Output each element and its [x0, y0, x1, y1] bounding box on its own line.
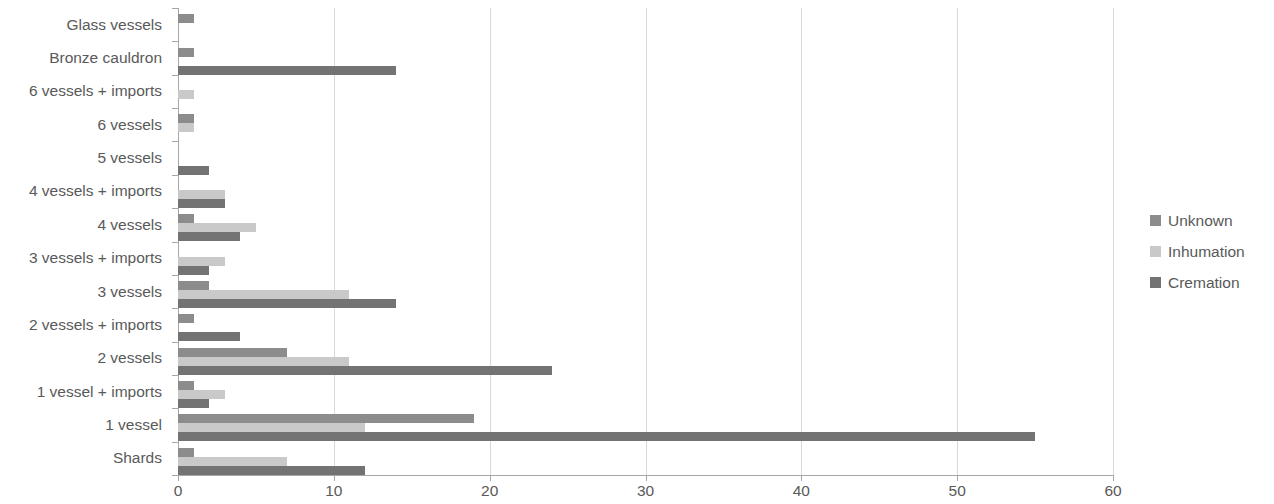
y-axis-label-shards: Shards	[0, 450, 162, 466]
bar-inhumation-1-vessel-imports	[178, 390, 225, 399]
x-tick-label: 0	[174, 483, 183, 499]
x-tick-label: 10	[325, 483, 342, 499]
bar-cremation-3-vessels	[178, 299, 396, 308]
bar-inhumation-4-vessels-imports	[178, 190, 225, 199]
y-tick	[172, 408, 178, 409]
y-tick	[172, 75, 178, 76]
y-tick	[172, 108, 178, 109]
bar-unknown-shards	[178, 448, 194, 457]
legend-item-cremation[interactable]: Cremation	[1150, 267, 1274, 298]
bar-unknown-1-vessel	[178, 414, 474, 423]
bar-unknown-glass-vessels	[178, 14, 194, 23]
bar-inhumation-1-vessel	[178, 423, 365, 432]
legend-swatch-icon	[1150, 215, 1161, 226]
x-tick-50	[957, 475, 958, 481]
legend-item-unknown[interactable]: Unknown	[1150, 205, 1274, 236]
bar-unknown-6-vessels	[178, 114, 194, 123]
bar-inhumation-2-vessels	[178, 357, 349, 366]
gridline-60	[1113, 8, 1114, 475]
bar-unknown-4-vessels	[178, 214, 194, 223]
bar-cremation-4-vessels-imports	[178, 199, 225, 208]
gridline-50	[957, 8, 958, 475]
y-tick	[172, 141, 178, 142]
legend-swatch-icon	[1150, 277, 1161, 288]
x-tick-label: 40	[793, 483, 810, 499]
x-tick-label: 30	[637, 483, 654, 499]
gridline-30	[646, 8, 647, 475]
gridline-10	[334, 8, 335, 475]
bar-inhumation-3-vessels-imports	[178, 257, 225, 266]
bar-cremation-1-vessel	[178, 432, 1035, 441]
y-tick	[172, 375, 178, 376]
y-axis-label-3-vessels-imports: 3 vessels + imports	[0, 250, 162, 266]
x-tick-0	[178, 475, 179, 481]
legend-label: Inhumation	[1168, 244, 1245, 260]
y-tick	[172, 275, 178, 276]
x-tick-label: 20	[481, 483, 498, 499]
y-axis-label-bronze-cauldron: Bronze cauldron	[0, 50, 162, 66]
y-axis-label-6-vessels-imports: 6 vessels + imports	[0, 83, 162, 99]
plot-area	[178, 8, 1113, 475]
y-axis-label-1-vessel: 1 vessel	[0, 417, 162, 433]
y-axis-label-6-vessels: 6 vessels	[0, 117, 162, 133]
y-axis-label-2-vessels: 2 vessels	[0, 350, 162, 366]
x-tick-label: 50	[949, 483, 966, 499]
bar-inhumation-3-vessels	[178, 290, 349, 299]
bar-cremation-2-vessels	[178, 366, 552, 375]
y-tick	[172, 442, 178, 443]
bar-unknown-2-vessels-imports	[178, 314, 194, 323]
y-axis-label-3-vessels: 3 vessels	[0, 284, 162, 300]
y-tick	[172, 342, 178, 343]
y-axis-category-labels: Glass vesselsBronze cauldron6 vessels + …	[0, 8, 170, 475]
x-tick-60	[1113, 475, 1114, 481]
y-axis-label-1-vessel-imports: 1 vessel + imports	[0, 384, 162, 400]
y-axis-label-5-vessels: 5 vessels	[0, 150, 162, 166]
bar-cremation-2-vessels-imports	[178, 332, 240, 341]
bar-cremation-1-vessel-imports	[178, 399, 209, 408]
gridline-20	[490, 8, 491, 475]
x-tick-label: 60	[1104, 483, 1121, 499]
bar-unknown-2-vessels	[178, 348, 287, 357]
bar-chart: Glass vesselsBronze cauldron6 vessels + …	[0, 0, 1274, 504]
bar-cremation-bronze-cauldron	[178, 66, 396, 75]
y-tick	[172, 308, 178, 309]
bar-cremation-5-vessels	[178, 166, 209, 175]
y-axis-label-2-vessels-imports: 2 vessels + imports	[0, 317, 162, 333]
bar-inhumation-shards	[178, 457, 287, 466]
bar-inhumation-4-vessels	[178, 223, 256, 232]
chart-legend: UnknownInhumationCremation	[1150, 205, 1274, 298]
bar-inhumation-6-vessels-imports	[178, 90, 194, 99]
y-tick	[172, 242, 178, 243]
legend-item-inhumation[interactable]: Inhumation	[1150, 236, 1274, 267]
legend-label: Unknown	[1168, 213, 1233, 229]
y-tick	[172, 175, 178, 176]
y-axis-label-4-vessels: 4 vessels	[0, 217, 162, 233]
x-tick-30	[646, 475, 647, 481]
bar-inhumation-6-vessels	[178, 123, 194, 132]
bar-cremation-4-vessels	[178, 232, 240, 241]
x-tick-20	[490, 475, 491, 481]
y-tick	[172, 41, 178, 42]
y-tick	[172, 208, 178, 209]
bar-unknown-3-vessels	[178, 281, 209, 290]
gridline-40	[801, 8, 802, 475]
y-axis-label-4-vessels-imports: 4 vessels + imports	[0, 183, 162, 199]
legend-label: Cremation	[1168, 275, 1240, 291]
bar-cremation-shards	[178, 466, 365, 475]
y-tick	[172, 8, 178, 9]
x-tick-40	[801, 475, 802, 481]
bar-unknown-bronze-cauldron	[178, 48, 194, 57]
bar-unknown-1-vessel-imports	[178, 381, 194, 390]
x-tick-10	[334, 475, 335, 481]
legend-swatch-icon	[1150, 246, 1161, 257]
y-axis-label-glass-vessels: Glass vessels	[0, 17, 162, 33]
bar-cremation-3-vessels-imports	[178, 266, 209, 275]
